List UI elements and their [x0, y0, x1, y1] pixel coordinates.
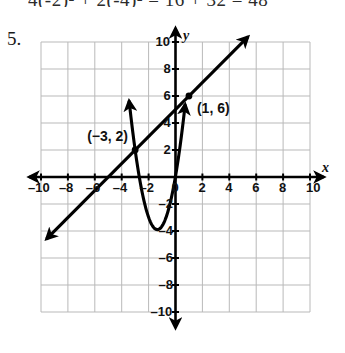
y-tick-label: –8: [159, 277, 173, 292]
y-tick-label: 8: [164, 61, 171, 76]
x-axis-label: x: [322, 160, 329, 176]
x-tick-label: 2: [198, 180, 205, 195]
data-point: [132, 147, 139, 154]
y-axis-label: y: [183, 28, 189, 44]
x-tick-label: –8: [59, 180, 73, 195]
point-label: (−3, 2): [87, 128, 128, 144]
point-label: (1, 6): [197, 100, 230, 116]
y-tick-label: –4: [159, 223, 173, 238]
x-tick-label: 0: [172, 180, 179, 195]
y-tick-label: 6: [164, 88, 171, 103]
x-tick-label: 10: [306, 180, 320, 195]
x-tick-label: –2: [140, 180, 154, 195]
y-tick-label: 2: [164, 142, 171, 157]
x-tick-label: –6: [86, 180, 100, 195]
y-tick-label: 4: [164, 115, 171, 130]
x-tick-label: 4: [225, 180, 232, 195]
x-tick-label: 6: [252, 180, 259, 195]
data-point: [186, 93, 193, 100]
worksheet-page: 4(-2)² + 2(-4)² = 16 + 32 = 48 5. y x –1…: [0, 0, 345, 353]
x-tick-label: 8: [279, 180, 286, 195]
y-tick-label: –2: [159, 196, 173, 211]
y-tick-label: 10: [156, 34, 170, 49]
x-tick-label: –10: [28, 180, 50, 195]
coordinate-graph: [0, 0, 345, 353]
y-tick-label: –6: [159, 250, 173, 265]
x-tick-label: –4: [113, 180, 127, 195]
y-tick-label: –10: [151, 304, 173, 319]
